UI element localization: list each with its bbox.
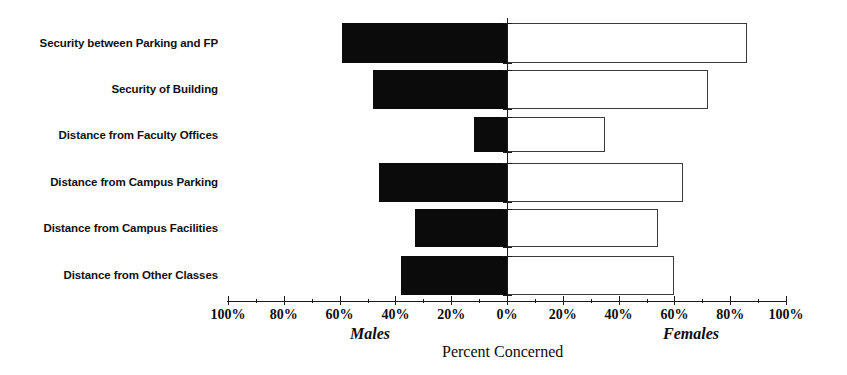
axis-tick-major — [340, 296, 341, 305]
axis-tick-label: 40% — [365, 307, 425, 323]
bar-female — [507, 256, 674, 295]
axis-tick-label: 20% — [533, 307, 593, 323]
bar-male — [401, 256, 507, 295]
chart-page: Security between Parking and FP Security… — [0, 0, 847, 375]
axis-tick-major — [563, 296, 564, 305]
axis-tick-minor — [368, 299, 369, 303]
axis-tick-minor — [423, 299, 424, 303]
axis-tick-major — [451, 296, 452, 305]
bar-female — [507, 70, 708, 109]
axis-tick-minor — [647, 299, 648, 303]
bar-female — [507, 209, 658, 247]
axis-tick-label: 60% — [644, 307, 704, 323]
axis-tick-label: 80% — [254, 307, 314, 323]
axis-tick-minor — [256, 299, 257, 303]
series-label-females: Females — [663, 325, 719, 343]
axis-tick-label: 60% — [310, 307, 370, 323]
axis-tick-major — [507, 296, 508, 305]
bar-female — [507, 117, 605, 152]
axis-tick-major — [228, 296, 229, 305]
bar-male — [474, 117, 507, 152]
axis-tick-label: 100% — [198, 307, 258, 323]
plot-area: 100%80%60%40%20%0%20%40%60%80%100% Males… — [0, 0, 847, 375]
axis-tick-minor — [312, 299, 313, 303]
axis-tick-label: 20% — [421, 307, 481, 323]
bar-male — [379, 163, 507, 202]
axis-tick-label: 0% — [477, 307, 537, 323]
axis-tick-minor — [479, 299, 480, 303]
axis-tick-minor — [702, 299, 703, 303]
axis-tick-minor — [591, 299, 592, 303]
axis-tick-major — [730, 296, 731, 305]
axis-tick-major — [284, 296, 285, 305]
axis-tick-label: 80% — [700, 307, 760, 323]
bar-female — [507, 163, 683, 202]
axis-tick-major — [674, 296, 675, 305]
series-label-males: Males — [350, 325, 390, 343]
axis-tick-major — [395, 296, 396, 305]
axis-tick-major — [786, 296, 787, 305]
bar-male — [342, 23, 507, 63]
x-axis-title: Percent Concerned — [442, 343, 563, 361]
zero-axis-line — [507, 18, 508, 302]
axis-tick-label: 40% — [589, 307, 649, 323]
bar-male — [415, 209, 507, 247]
bar-female — [507, 23, 747, 63]
bar-male — [373, 70, 507, 109]
axis-tick-minor — [758, 299, 759, 303]
axis-tick-major — [619, 296, 620, 305]
axis-tick-minor — [535, 299, 536, 303]
axis-tick-label: 100% — [756, 307, 816, 323]
